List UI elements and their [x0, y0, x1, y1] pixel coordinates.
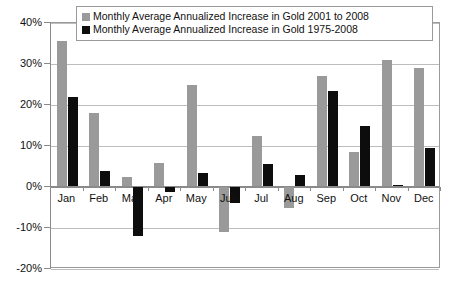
gridline--10: [51, 228, 439, 229]
y-axis-label-10: 10%: [0, 139, 42, 151]
legend-item-0: Monthly Average Annualized Increase in G…: [82, 10, 427, 23]
x-tick-jun: [245, 187, 246, 191]
y-tick-10: [44, 145, 51, 146]
x-axis-label-dec: Dec: [414, 192, 434, 204]
bar-feb-series-1: [100, 171, 110, 187]
plot-area: [50, 22, 440, 268]
bar-jul-series-1: [263, 164, 273, 187]
bar-sep-series-1: [328, 91, 338, 187]
x-axis-label-nov: Nov: [381, 192, 401, 204]
y-tick-40: [44, 22, 51, 23]
x-axis-label-jan: Jan: [57, 192, 75, 204]
bar-may-series-1: [198, 173, 208, 187]
y-tick--10: [44, 227, 51, 228]
chart-legend: Monthly Average Annualized Increase in G…: [76, 6, 433, 41]
bar-jan-series-1: [68, 97, 78, 187]
x-tick-may: [213, 187, 214, 191]
x-axis-label-apr: Apr: [155, 192, 172, 204]
legend-item-1: Monthly Average Annualized Increase in G…: [82, 23, 427, 36]
y-axis-label-0: 0%: [0, 180, 42, 192]
x-tick-sep: [343, 187, 344, 191]
gold-monthly-increase-bar-chart: 40%30%20%10%0%-10%-20% JanFebMarAprMayJu…: [0, 0, 453, 292]
y-tick--20: [44, 268, 51, 269]
bar-dec-series-0: [414, 68, 424, 187]
x-tick-oct: [375, 187, 376, 191]
y-tick-30: [44, 63, 51, 64]
legend-label-series-2001-2008: Monthly Average Annualized Increase in G…: [93, 10, 369, 23]
bar-nov-series-0: [382, 60, 392, 187]
x-axis-label-sep: Sep: [316, 192, 336, 204]
y-axis-label--20: -20%: [0, 262, 42, 274]
bar-sep-series-0: [317, 76, 327, 187]
y-tick-20: [44, 104, 51, 105]
y-axis-label-40: 40%: [0, 16, 42, 28]
y-axis-label-30: 30%: [0, 57, 42, 69]
legend-swatch-icon-series-1975-2008: [82, 26, 90, 34]
x-axis-label-feb: Feb: [89, 192, 108, 204]
x-axis-label-oct: Oct: [350, 192, 367, 204]
bar-may-series-0: [187, 85, 197, 188]
x-tick-jan: [83, 187, 84, 191]
x-tick-nov: [408, 187, 409, 191]
x-axis-label-jul: Jul: [254, 192, 268, 204]
x-tick-feb: [115, 187, 116, 191]
gridline--20: [51, 269, 439, 270]
legend-label-series-1975-2008: Monthly Average Annualized Increase in G…: [93, 23, 358, 36]
bar-oct-series-0: [349, 152, 359, 187]
x-tick-aug: [310, 187, 311, 191]
x-axis-label-aug: Aug: [284, 192, 304, 204]
bar-dec-series-1: [425, 148, 435, 187]
x-tick-apr: [180, 187, 181, 191]
x-axis-label-may: May: [186, 192, 207, 204]
x-axis-label-jun: Jun: [220, 192, 238, 204]
bar-feb-series-0: [89, 113, 99, 187]
x-axis-label-mar: Mar: [122, 192, 141, 204]
y-axis-label--10: -10%: [0, 221, 42, 233]
x-tick-mar: [148, 187, 149, 191]
legend-swatch-icon-series-2001-2008: [82, 13, 90, 21]
y-axis-label-20: 20%: [0, 98, 42, 110]
x-tick-jul: [278, 187, 279, 191]
bar-jan-series-0: [57, 41, 67, 187]
x-tick-dec: [440, 187, 441, 191]
bar-oct-series-1: [360, 126, 370, 188]
bar-apr-series-0: [154, 163, 164, 187]
bar-jul-series-0: [252, 136, 262, 187]
